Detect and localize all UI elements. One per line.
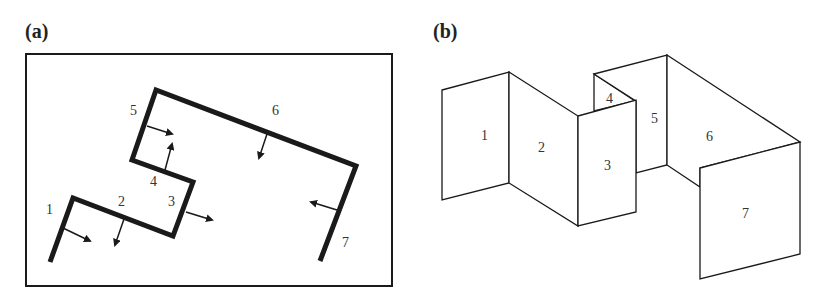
normal-arrow-icon — [259, 131, 268, 158]
wall-panel-label: 1 — [481, 128, 488, 143]
panel-a-floorplan: 1234567 — [26, 54, 392, 286]
wall-panel-label: 3 — [604, 158, 611, 173]
normal-arrow-icon — [311, 202, 337, 210]
frame-border — [26, 54, 392, 286]
segment-label: 6 — [272, 103, 279, 118]
wall-panel-label: 2 — [538, 140, 545, 155]
wall-panel-label: 5 — [651, 111, 658, 126]
segment-label: 4 — [150, 174, 157, 189]
normal-arrow-icon — [115, 219, 124, 245]
segment-label: 1 — [46, 202, 53, 217]
segment-label: 5 — [130, 103, 137, 118]
segment-label: 2 — [118, 194, 125, 209]
diagram-canvas: 1234567 1245367 — [0, 0, 832, 298]
wall-panel-label: 6 — [706, 129, 713, 144]
segment-label: 7 — [342, 235, 349, 250]
wall-path — [50, 90, 356, 262]
normal-arrow-icon — [165, 144, 172, 170]
normal-arrow-icon — [147, 126, 172, 134]
panel-b-3d-walls: 1245367 — [442, 55, 800, 279]
wall-panel — [442, 72, 509, 200]
segment-label: 3 — [168, 194, 175, 209]
normal-arrow-icon — [63, 228, 90, 241]
wall-panel-label: 7 — [742, 206, 749, 221]
normal-arrow-icon — [186, 212, 212, 220]
wall-panel-label: 4 — [606, 91, 613, 106]
